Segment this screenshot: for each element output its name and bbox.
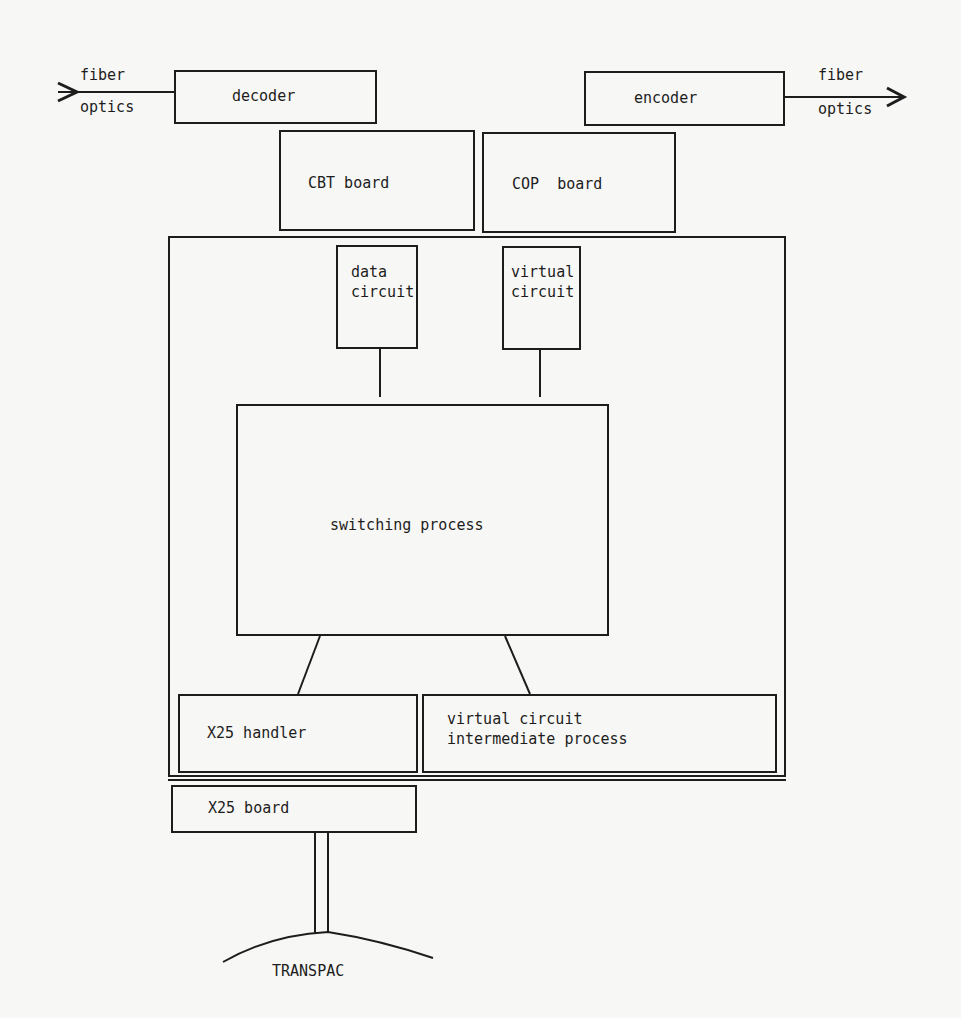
output-fiber-label-line1: fiber [818,66,863,85]
switching-process-label: switching process [330,516,484,535]
transpac-network-arc [223,932,433,962]
cop-board-box: COP board [482,132,676,233]
x25-board-label: X25 board [208,799,289,818]
virtual-circuit-box: virtual circuit [502,246,581,350]
input-fiber-label-line1: fiber [80,66,125,85]
data-circuit-box: data circuit [336,245,418,349]
vc-intermediate-label-line2: intermediate process [447,730,628,749]
encoder-label: encoder [634,89,697,108]
input-fiber-label-line2: optics [80,98,134,117]
switching-process-box: switching process [236,404,609,636]
output-fiber-label-line2: optics [818,100,872,119]
vc-intermediate-label-line1: virtual circuit [447,710,582,729]
x25-handler-box: X25 handler [178,694,418,773]
cbt-board-box: CBT board [279,130,475,231]
transpac-label: TRANSPAC [272,962,344,981]
decoder-label: decoder [232,87,295,106]
data-circuit-label-line2: circuit [351,283,414,302]
virtual-circuit-label-line1: virtual [511,263,574,282]
cop-board-label: COP board [512,175,602,194]
virtual-circuit-label-line2: circuit [511,283,574,302]
decoder-box: decoder [174,70,377,124]
data-circuit-label-line1: data [351,263,387,282]
vc-intermediate-process-box: virtual circuit intermediate process [422,694,777,773]
x25-handler-label: X25 handler [207,724,306,743]
encoder-box: encoder [584,71,785,126]
x25-board-box: X25 board [171,785,417,833]
cbt-board-label: CBT board [308,174,389,193]
